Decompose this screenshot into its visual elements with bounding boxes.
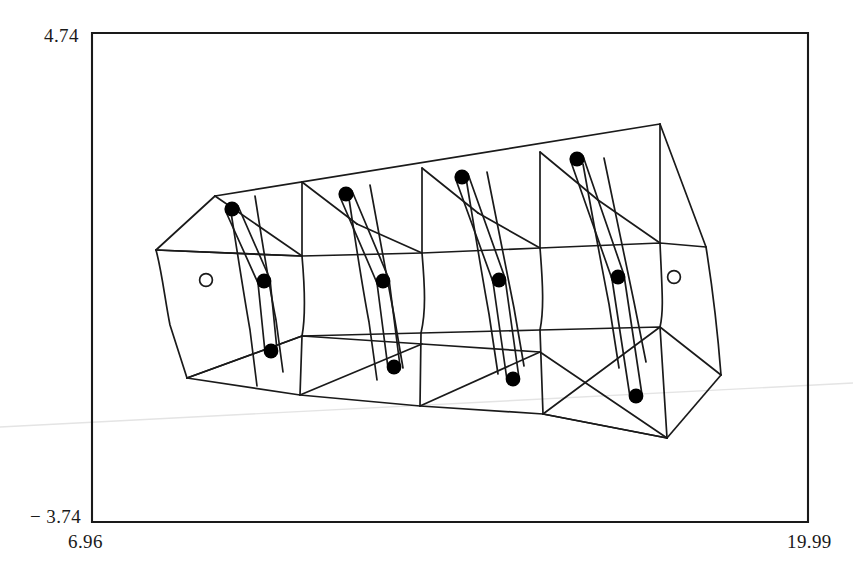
divider-2-mid	[421, 253, 425, 333]
right-end-face-bottom	[667, 375, 721, 438]
node-marker	[264, 344, 279, 359]
divider-2-diag-bottom	[420, 352, 540, 406]
divider-2-diag-top	[357, 224, 422, 253]
divider-3-bottom	[540, 330, 543, 414]
bottom-front-edge	[187, 336, 667, 438]
divider-1-mid	[302, 256, 305, 336]
divider-2-diag-top-b	[422, 168, 478, 213]
node-marker	[454, 169, 469, 184]
node-marker	[224, 201, 239, 216]
node-marker	[257, 274, 272, 289]
node-marker	[629, 389, 644, 404]
left-face-hole-icon	[200, 274, 213, 287]
node-marker	[611, 270, 626, 285]
panel-strut-1b	[230, 206, 257, 386]
panel-strut-4	[604, 158, 646, 362]
divider-1-diag-bottom	[300, 344, 422, 395]
right-face-hole-icon	[668, 271, 681, 284]
divider-1-bottom	[300, 336, 302, 395]
bottom-back-edge	[187, 378, 667, 438]
node-marker	[376, 274, 391, 289]
right-face-bottom-diag	[660, 327, 667, 438]
panel-strut-2b	[348, 192, 377, 380]
right-end-face-lower	[706, 247, 721, 375]
divider-2-bottom	[420, 333, 421, 406]
end-face-holes	[200, 271, 681, 287]
figure-canvas: 4.74 − 3.74 6.96 19.99	[0, 0, 853, 578]
divider-4-diag-top	[598, 200, 660, 243]
horizon-line-group	[0, 383, 853, 427]
node-marker	[569, 151, 584, 166]
left-face-top-edge	[156, 196, 215, 250]
horizon-line	[0, 383, 853, 427]
panel-strut-4b	[583, 164, 619, 368]
x-axis-min-label: 6.96	[68, 532, 103, 551]
left-end-face	[156, 250, 187, 378]
right-end-face-upper	[660, 124, 706, 247]
x-axis-max-label: 19.99	[787, 532, 832, 551]
plot-svg	[0, 0, 853, 578]
node-marker	[338, 186, 353, 201]
y-axis-min-label: − 3.74	[30, 507, 81, 526]
tube-struts	[226, 156, 642, 397]
divider-3-mid	[540, 248, 543, 330]
right-face-edge-inner-2	[660, 243, 662, 327]
strut-4	[571, 156, 642, 397]
node-marker	[506, 372, 521, 387]
y-axis-max-label: 4.74	[44, 26, 79, 45]
node-marker	[387, 360, 402, 375]
node-marker	[492, 273, 507, 288]
